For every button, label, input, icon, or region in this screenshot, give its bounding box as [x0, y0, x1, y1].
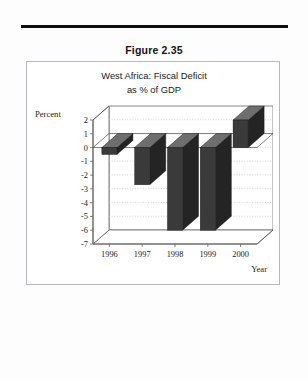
- chart-title-line-1: West Africa: Fiscal Deficit: [27, 69, 281, 83]
- y-axis-tick-label: -7: [81, 240, 88, 249]
- plot-area: 210-1-2-3-4-5-6-719961997199819992000: [57, 104, 273, 266]
- bar-side-face: [215, 134, 231, 231]
- chart-title-line-2: as % of GDP: [27, 83, 281, 97]
- x-axis-tick-label: 1998: [167, 250, 184, 259]
- chart-title: West Africa: Fiscal Deficit as % of GDP: [27, 69, 281, 96]
- chart-left-wall: [93, 106, 109, 244]
- x-axis-tick-label: 1996: [101, 250, 118, 259]
- chart-floor: [93, 230, 273, 244]
- chart-container: West Africa: Fiscal Deficit as % of GDP …: [26, 61, 280, 285]
- x-axis-tick-label: 1999: [199, 250, 216, 259]
- bar-front-face: [135, 148, 150, 185]
- bar-front-face: [200, 148, 215, 231]
- bar-side-face: [183, 134, 199, 231]
- y-axis-tick-label: -4: [81, 199, 89, 208]
- bar-front-face: [167, 148, 182, 231]
- x-axis-tick-label: 1997: [134, 250, 151, 259]
- bar-chart-svg: 210-1-2-3-4-5-6-719961997199819992000: [57, 104, 273, 266]
- y-axis-tick-label: 0: [84, 144, 88, 153]
- y-axis-tick-label: -2: [81, 171, 88, 180]
- y-axis-tick-label: 2: [84, 116, 88, 125]
- y-axis-tick-label: 1: [84, 130, 88, 139]
- bar-front-face: [233, 120, 248, 148]
- page-canvas: Figure 2.35 West Africa: Fiscal Deficit …: [0, 0, 308, 379]
- header-rule: [21, 25, 288, 28]
- x-axis-tick-label: 2000: [232, 250, 249, 259]
- y-axis-tick-label: -5: [81, 212, 88, 221]
- figure-caption: Figure 2.35: [0, 44, 308, 56]
- bar-front-face: [102, 148, 117, 155]
- bar-1998: [167, 134, 198, 231]
- bar-1999: [200, 134, 231, 231]
- y-axis-tick-label: -1: [81, 157, 88, 166]
- y-axis-tick-label: -6: [81, 226, 88, 235]
- y-axis-tick-label: -3: [81, 185, 88, 194]
